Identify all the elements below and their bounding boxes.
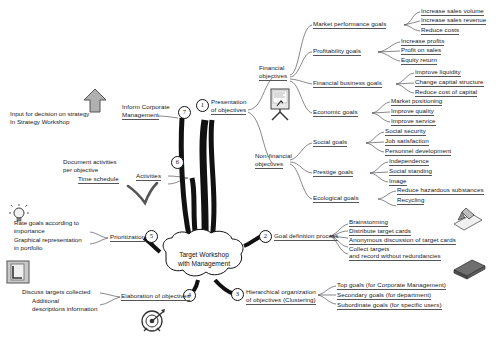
branch-1-label-line1[interactable]: Presentation (211, 98, 247, 105)
branch-4-note-1[interactable]: Additional (32, 297, 59, 305)
mindmap-canvas: Target Workshop with Management 1 Presen… (0, 0, 501, 342)
branch-7-label-line2[interactable]: Management (122, 111, 159, 120)
branch-5-label[interactable]: Prioritization (110, 233, 145, 242)
leaf-item[interactable]: Anonymous discussion of target cards (349, 236, 456, 245)
leaf-item[interactable]: Recycling (397, 196, 424, 205)
center-node[interactable]: Target Workshop with Management (158, 238, 250, 280)
flipchart-icon (266, 88, 294, 126)
branch-6-note-1[interactable]: per objective (63, 166, 98, 174)
leaf-item[interactable]: Change capital structure (415, 78, 484, 87)
branch-6-label[interactable]: Activities (136, 172, 161, 181)
leaf-item[interactable]: Social security (385, 127, 426, 136)
leaf-item[interactable]: Image (389, 177, 407, 186)
leaf-item[interactable]: Reduce hazardous substances (397, 186, 484, 195)
lightbulb-icon (8, 203, 30, 229)
branch-6-note-0[interactable]: Document activities (63, 158, 117, 166)
branch-7-label-line1[interactable]: Inform Corporate (122, 103, 170, 110)
subgroup-social-goals[interactable]: Social goals (313, 138, 347, 147)
leaf-item[interactable]: Social standing (389, 167, 432, 176)
card-stack-icon (452, 256, 488, 284)
leaf-item[interactable]: Distribute target cards (349, 227, 411, 236)
leaf-item[interactable]: Profit on sales (401, 46, 441, 55)
leaf-item[interactable]: Reduce cost of capital (415, 88, 477, 97)
leaf-item[interactable]: Independence (389, 157, 429, 166)
subgroup-market-performance-goals[interactable]: Market performance goals (313, 20, 386, 29)
branch-number-5[interactable]: 5 (145, 230, 158, 243)
branch-4-note-2[interactable]: descriptions information (32, 305, 97, 313)
leaf-item[interactable]: Brainstorming (349, 218, 388, 227)
pen-card-icon (452, 206, 486, 236)
leaf-item[interactable]: Personnel development (385, 147, 451, 156)
subgroup-economic-goals[interactable]: Economic goals (313, 108, 358, 117)
branch-3-label-line1[interactable]: Hierarchical organization (246, 288, 316, 295)
subgroup-ecological-goals[interactable]: Ecological goals (313, 194, 359, 203)
leaf-item[interactable]: Reduce costs (421, 26, 459, 35)
branch-number-2[interactable]: 2 (259, 230, 272, 243)
leaf-item[interactable]: Job satisfaction (385, 137, 429, 146)
checkmark-icon (126, 182, 160, 210)
branch-7-note-0[interactable]: Input for decision on strategy (10, 110, 89, 118)
leaf-item[interactable]: Top goals (for Corporate Management) (337, 281, 446, 290)
group-non-financial-objectives-line1[interactable]: Non-financial (255, 152, 292, 159)
branch-4-label[interactable]: Elaboration of objectives (121, 292, 190, 301)
leaf-item[interactable]: Subordinate goals (for specific users) (337, 301, 442, 310)
leaf-item[interactable]: Improve liquidity (415, 68, 461, 77)
leaf-item[interactable]: Increase sales revenue (421, 16, 486, 25)
leaf-item[interactable]: Market positioning (391, 97, 442, 106)
branch-7-note-1[interactable]: In Strategy Workshop (10, 118, 69, 126)
group-non-financial-objectives-line2[interactable]: objectives (255, 160, 283, 169)
group-financial-objectives-line2[interactable]: objectives (259, 72, 287, 81)
center-node-line2: with Management (178, 259, 230, 268)
leaf-item[interactable]: Equity return (401, 56, 437, 65)
arrow-up-icon (82, 88, 108, 118)
target-icon (137, 306, 167, 340)
subgroup-prestige-goals[interactable]: Prestige goals (313, 168, 353, 177)
center-node-line1: Target Workshop (178, 250, 230, 259)
leaf-item[interactable]: Improve quality (391, 107, 434, 116)
branch-number-6[interactable]: 6 (171, 156, 184, 169)
branch-number-3[interactable]: 3 (231, 288, 244, 301)
leaf-item[interactable]: Improve service (391, 117, 436, 126)
leaf-item[interactable]: and record without redundancies (349, 252, 441, 261)
subgroup-financial-business-goals[interactable]: Financial business goals (313, 79, 382, 88)
group-financial-objectives-line1[interactable]: Financial (259, 64, 284, 71)
leaf-item[interactable]: Secondary goals (for department) (337, 291, 431, 300)
leaf-item[interactable]: Increase sales volume (421, 7, 484, 16)
branch-number-7[interactable]: 7 (178, 106, 191, 119)
branch-4-note-0[interactable]: Discuss targets collected (22, 288, 90, 296)
leaf-item[interactable]: Increase profits (401, 37, 444, 46)
subgroup-profitability-goals[interactable]: Profitability goals (313, 47, 361, 56)
branch-3-label-line2[interactable]: of objectives (Clustering) (246, 296, 316, 305)
branch-5-note-3[interactable]: in portfolio (14, 244, 43, 252)
document-icon (6, 260, 30, 290)
branch-2-label[interactable]: Goal definition process (274, 232, 338, 241)
branch-1-label-line2[interactable]: of objectives (211, 106, 246, 115)
branch-5-note-2[interactable]: Graphical representation (14, 236, 82, 244)
branch-6-note-2[interactable]: Time schedule (78, 175, 119, 184)
branch-number-1[interactable]: 1 (196, 99, 209, 112)
